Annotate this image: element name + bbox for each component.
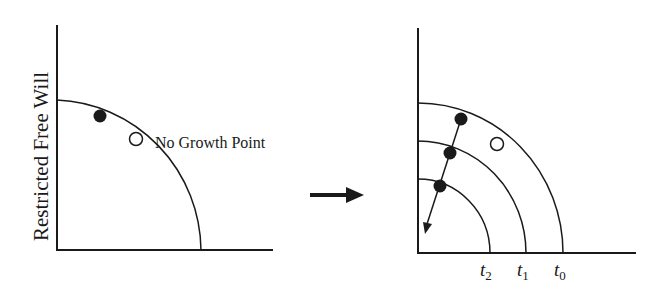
left-panel: No Growth Point Restricted Free Will [29,25,273,251]
frontier-curve-t2 [418,179,490,253]
point-t1 [444,147,457,160]
decline-path [427,119,461,224]
frontier-curve-t1 [418,141,526,253]
label-t1: t1 [517,259,529,283]
left-frontier-curve [57,100,201,250]
right-arrow-icon [310,187,364,203]
no-growth-point-label: No Growth Point [155,134,266,151]
no-growth-point-marker [130,133,143,146]
no-growth-point-marker-right [491,138,504,151]
filled-point [94,110,107,123]
y-axis-label: Restricted Free Will [29,72,53,241]
diagram-canvas: No Growth Point Restricted Free Will t2 … [0,0,666,288]
right-panel: t2 t1 t0 [417,28,636,283]
point-t0 [455,113,468,126]
decline-arrowhead-icon [423,222,432,234]
frontier-curve-t0 [418,103,563,253]
point-t2 [434,180,447,193]
label-t2: t2 [480,259,492,283]
label-t0: t0 [554,259,566,283]
